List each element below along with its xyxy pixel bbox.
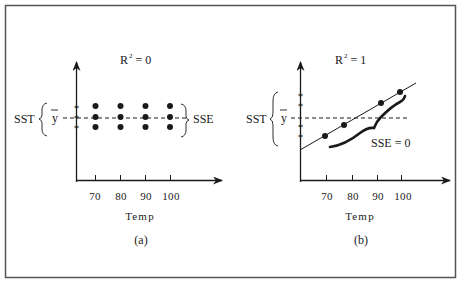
ybar-label-b: y — [281, 111, 287, 125]
ybar-label-a: y — [52, 111, 58, 125]
x-axis-title-a: Temp — [125, 210, 155, 222]
regression-r2-figure: R2= 0 70 80 90 100 Temp (a) * * * — [0, 0, 461, 290]
x-tick-label-b-80: 80 — [347, 190, 359, 202]
svg-text:*: * — [298, 131, 304, 143]
x-tick-label-a-70: 70 — [89, 190, 101, 202]
y-asterisks-a: * * * — [74, 102, 80, 134]
x-axis-title-b: Temp — [345, 210, 375, 222]
x-tick-label-b-100: 100 — [394, 190, 412, 202]
sst-label-b: SST — [246, 112, 267, 126]
r2-label-b: R2= 1 — [335, 52, 366, 67]
sst-label-a: SST — [14, 112, 35, 126]
right-brace-a — [181, 104, 189, 137]
caption-a: (a) — [134, 233, 147, 247]
data-points-a — [93, 103, 174, 130]
x-ticks-a — [96, 175, 171, 180]
sse-label-a: SSE — [193, 112, 214, 126]
panel-b: R2= 1 70 80 90 100 Temp (b) * * * * — [246, 52, 450, 247]
x-tick-label-a-90: 90 — [140, 190, 152, 202]
svg-text:*: * — [298, 100, 304, 112]
x-ticks-b — [327, 175, 402, 180]
left-brace-a — [39, 103, 47, 136]
x-tick-label-b-90: 90 — [372, 190, 384, 202]
svg-text:*: * — [74, 122, 80, 134]
left-brace-b — [270, 92, 278, 146]
panel-a: R2= 0 70 80 90 100 Temp (a) * * * — [14, 52, 222, 247]
x-tick-label-a-80: 80 — [115, 190, 127, 202]
r2-label-a: R2= 0 — [120, 52, 151, 67]
x-tick-label-a-100: 100 — [162, 190, 180, 202]
caption-b: (b) — [354, 233, 368, 247]
sse-label-b: SSE = 0 — [371, 136, 410, 150]
x-tick-label-b-70: 70 — [321, 190, 333, 202]
